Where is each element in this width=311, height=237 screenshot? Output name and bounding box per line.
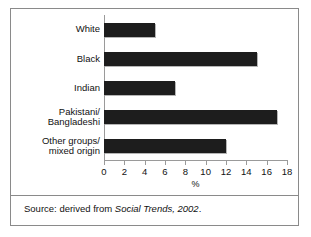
figure-frame: WhiteBlackIndianPakistani/ BangladeshiOt… — [10, 8, 299, 226]
x-axis-title: % — [104, 179, 287, 189]
x-axis-tick — [104, 161, 105, 165]
x-axis-tick-label: 10 — [200, 166, 211, 177]
category-label: Black — [77, 54, 100, 65]
category-label: White — [76, 24, 100, 35]
x-axis-tick-label: 2 — [122, 166, 127, 177]
x-axis-tick-label: 8 — [183, 166, 188, 177]
bar — [104, 52, 257, 66]
x-axis-tick — [185, 161, 186, 165]
category-label: Other groups/ mixed origin — [42, 136, 100, 157]
category-axis-labels: WhiteBlackIndianPakistani/ BangladeshiOt… — [11, 9, 104, 161]
x-axis-tick-label: 4 — [142, 166, 147, 177]
plot-area — [104, 15, 287, 161]
x-axis-tick-label: 6 — [162, 166, 167, 177]
x-axis-tick-label: 16 — [261, 166, 272, 177]
category-label: Indian — [74, 83, 100, 94]
x-axis-tick-label: 0 — [101, 166, 106, 177]
x-axis-tick — [287, 161, 288, 165]
x-axis-tick — [165, 161, 166, 165]
footer-divider — [11, 195, 298, 196]
x-axis-tick — [267, 161, 268, 165]
x-axis-tick-labels: 024681012141618 — [104, 166, 287, 179]
source-suffix: . — [199, 203, 202, 214]
x-axis-tick-label: 14 — [241, 166, 252, 177]
bar — [104, 110, 277, 124]
x-axis-tick-label: 12 — [221, 166, 232, 177]
category-label: Pakistani/ Bangladeshi — [48, 107, 100, 128]
bar-chart: WhiteBlackIndianPakistani/ BangladeshiOt… — [11, 9, 298, 195]
x-axis-tick — [145, 161, 146, 165]
x-axis-tick — [206, 161, 207, 165]
bar — [104, 139, 226, 153]
source-title: Social Trends, 2002 — [115, 203, 199, 214]
bar — [104, 23, 155, 37]
source-note: Source: derived from Social Trends, 2002… — [24, 203, 201, 214]
x-axis-tick — [226, 161, 227, 165]
x-axis-tick — [124, 161, 125, 165]
bar — [104, 81, 175, 95]
x-axis-tick-label: 18 — [282, 166, 293, 177]
source-prefix: Source: derived from — [24, 203, 115, 214]
x-axis-tick — [246, 161, 247, 165]
